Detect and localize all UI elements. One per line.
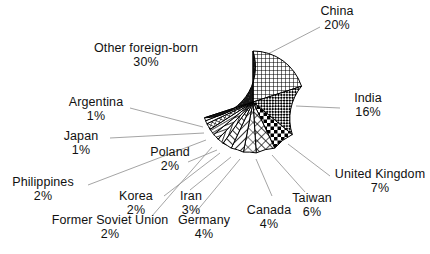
leader-line-canada [256, 159, 272, 196]
pie-label-other-foreign-born: Other foreign-born 30% [78, 42, 214, 69]
pie-label-poland-name: Poland [144, 146, 196, 160]
pie-slices [205, 51, 302, 153]
pie-label-japan: Japan 1% [56, 130, 106, 157]
pie-label-japan-percent: 1% [56, 144, 106, 158]
pie-label-philippines-percent: 2% [2, 190, 84, 204]
pie-label-iran: Iran 3% [172, 190, 210, 217]
pie-label-former-soviet-union-name: Former Soviet Union [34, 214, 186, 228]
leader-line-japan [110, 133, 204, 138]
pie-label-other-foreign-born-name: Other foreign-born [78, 42, 214, 56]
pie-label-united-kingdom-percent: 7% [330, 182, 430, 196]
pie-label-china: China 20% [304, 5, 370, 32]
leader-line-india [296, 106, 340, 108]
pie-label-poland: Poland 2% [144, 146, 196, 173]
pie-label-former-soviet-union: Former Soviet Union 2% [34, 214, 186, 241]
pie-label-canada-name: Canada [241, 204, 297, 218]
leader-line-argentina [130, 108, 203, 127]
pie-label-japan-name: Japan [56, 130, 106, 144]
pie-chart-figure: China 20% India 16% United Kingdom 7% Ta… [0, 0, 430, 254]
pie-label-poland-percent: 2% [144, 160, 196, 174]
pie-label-canada-percent: 4% [241, 218, 297, 232]
pie-label-korea-name: Korea [112, 190, 160, 204]
leader-line-iran [190, 157, 231, 190]
pie-label-china-percent: 20% [304, 19, 370, 33]
pie-label-india-name: India [340, 92, 396, 106]
pie-label-philippines-name: Philippines [2, 176, 84, 190]
pie-label-united-kingdom: United Kingdom 7% [330, 168, 430, 195]
pie-label-united-kingdom-name: United Kingdom [330, 168, 430, 182]
leader-line-united-kingdom [288, 144, 330, 176]
pie-label-argentina-percent: 1% [62, 110, 130, 124]
pie-label-india: India 16% [340, 92, 396, 119]
pie-label-former-soviet-union-percent: 2% [34, 228, 186, 242]
pie-label-india-percent: 16% [340, 106, 396, 120]
pie-label-iran-name: Iran [172, 190, 210, 204]
pie-label-argentina-name: Argentina [62, 96, 130, 110]
pie-label-china-name: China [304, 5, 370, 19]
pie-label-canada: Canada 4% [241, 204, 297, 231]
pie-label-argentina: Argentina 1% [62, 96, 130, 123]
pie-label-other-foreign-born-percent: 30% [78, 56, 214, 70]
pie-label-philippines: Philippines 2% [2, 176, 84, 203]
leader-line-taiwan [272, 155, 305, 192]
